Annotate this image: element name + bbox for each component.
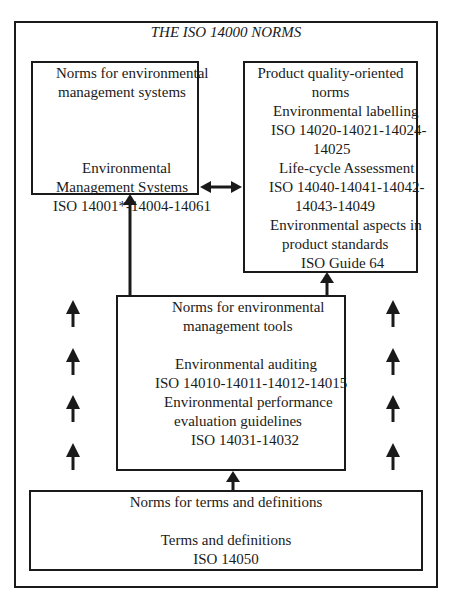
up-arrow-icon	[123, 194, 334, 490]
double-arrow-icon	[200, 181, 242, 193]
side-up-arrows-icon	[66, 300, 400, 470]
arrows-layer	[0, 0, 454, 606]
